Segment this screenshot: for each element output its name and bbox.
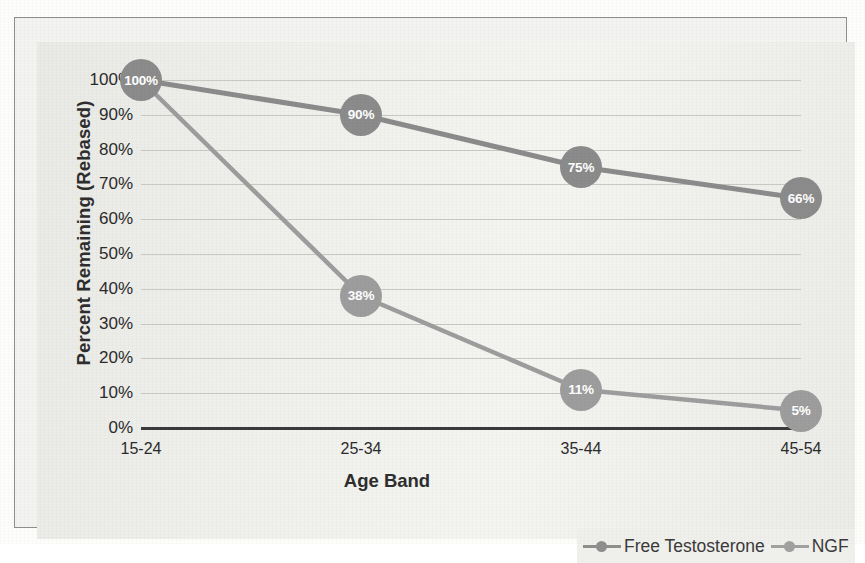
data-point: 66% [780, 177, 822, 219]
y-axis-tick-label: 90% [49, 105, 133, 125]
series-lines [141, 80, 801, 428]
legend-label: Free Testosterone [624, 536, 765, 557]
y-axis-tick-label: 50% [49, 244, 133, 264]
series-line [141, 80, 801, 198]
figure-frame: Percent Remaining (Rebased) Age Band 100… [14, 17, 847, 528]
series-line [141, 80, 801, 411]
chart-legend: Free TestosteroneNGF [577, 529, 855, 563]
x-axis-tick-label: 15-24 [81, 440, 201, 458]
y-axis-tick-label: 10% [49, 383, 133, 403]
y-axis-tick-label: 30% [49, 314, 133, 334]
x-axis-tick-label: 25-34 [301, 440, 421, 458]
legend-item[interactable]: Free Testosterone [583, 536, 765, 557]
y-axis-tick-label: 80% [49, 140, 133, 160]
chart-plot-container: Percent Remaining (Rebased) Age Band 100… [37, 42, 855, 539]
x-axis-tick-label: 35-44 [521, 440, 641, 458]
y-axis-tick-label: 60% [49, 209, 133, 229]
data-point: 5% [780, 390, 822, 432]
legend-label: NGF [812, 536, 849, 557]
legend-marker-icon [583, 539, 621, 553]
data-point: 75% [560, 146, 602, 188]
y-axis-tick-label: 20% [49, 348, 133, 368]
y-axis-tick-label: 70% [49, 174, 133, 194]
legend-marker-icon [771, 539, 809, 553]
data-point: 11% [560, 369, 602, 411]
data-point: 90% [340, 94, 382, 136]
plot-area: 100%90%80%70%60%50%40%30%20%10%0% 15-242… [141, 80, 801, 428]
x-axis-title: Age Band [37, 470, 737, 492]
data-point: 38% [340, 275, 382, 317]
y-axis-tick-label: 40% [49, 279, 133, 299]
y-axis-tick-label: 0% [49, 418, 133, 438]
x-axis-tick-label: 45-54 [741, 440, 861, 458]
legend-item[interactable]: NGF [771, 536, 849, 557]
data-point: 100% [120, 59, 162, 101]
